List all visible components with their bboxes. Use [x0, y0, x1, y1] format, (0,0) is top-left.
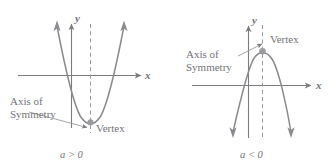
right-vertex-label: Vertex	[270, 33, 299, 45]
figure-canvas: x y Axis of Symmetry Vertex a > 0	[0, 0, 336, 167]
left-panel-graph: x y Axis of Symmetry Vertex a > 0	[10, 12, 151, 160]
left-vertex-label: Vertex	[96, 122, 125, 134]
left-condition-label: a > 0	[60, 149, 84, 160]
right-x-axis-label: x	[315, 79, 322, 91]
left-axis-of-symmetry-label-line2: Symmetry	[10, 108, 56, 120]
left-y-axis-label: y	[73, 12, 80, 24]
right-axis-of-symmetry-label-line2: Symmetry	[186, 61, 232, 73]
right-y-axis-label: y	[250, 14, 257, 26]
left-vertex-point	[87, 119, 93, 125]
left-axis-of-symmetry-label-line1: Axis of	[10, 95, 43, 107]
left-x-axis-label: x	[144, 69, 151, 81]
right-condition-label: a < 0	[240, 149, 264, 160]
right-panel-graph: x y Axis of Symmetry Vertex a < 0	[186, 14, 322, 160]
right-vertex-point	[259, 48, 266, 55]
right-axis-of-symmetry-label-line1: Axis of	[186, 48, 219, 60]
parabola-figure: x y Axis of Symmetry Vertex a > 0	[0, 0, 336, 167]
